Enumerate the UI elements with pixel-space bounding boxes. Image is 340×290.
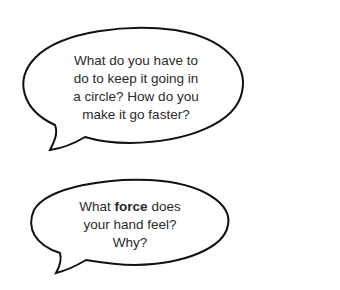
bubble-2-line-3: Why?	[60, 234, 200, 252]
bubble-1-line-4: make it go faster?	[50, 106, 222, 124]
speech-bubble-2-text: What force does your hand feel? Why?	[60, 198, 200, 252]
bold-keyword-force: force	[115, 199, 148, 214]
bubble-1-line-1: What do you have to	[50, 52, 222, 70]
bubble-2-line-2: your hand feel?	[60, 216, 200, 234]
bubble-1-line-2: do to keep it going in	[50, 70, 222, 88]
speech-bubble-1-text: What do you have to do to keep it going …	[50, 52, 222, 124]
bubble-2-line-1: What force does	[60, 198, 200, 216]
bubble-1-line-3: a circle? How do you	[50, 88, 222, 106]
